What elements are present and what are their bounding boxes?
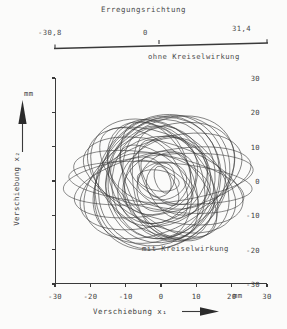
orbit-ellipse xyxy=(86,100,237,262)
plot-frame: -30-20-100102030 -30-20-100102030 xyxy=(55,78,267,284)
orbit-ellipse xyxy=(64,98,254,262)
orbit-ellipse xyxy=(142,159,180,202)
excitation-left-value-text: -30,8 xyxy=(38,28,62,37)
x-tick xyxy=(54,284,55,288)
x-tick-label: 0 xyxy=(159,292,164,301)
y-axis-label: Verschiebung x₂ xyxy=(13,134,20,244)
x-tick-label: -10 xyxy=(119,292,133,301)
annotation-with-gyro: mit Kreiselwirkung xyxy=(142,245,229,252)
orbit-ellipse xyxy=(134,151,186,211)
orbit-ellipse xyxy=(104,110,214,250)
excitation-right-value: 31,4 xyxy=(232,25,251,32)
excitation-left-value: -30,8 xyxy=(38,29,62,36)
excitation-center-value: 0 xyxy=(143,29,148,36)
x-axis-label: Verschiebung x₁ xyxy=(93,308,167,315)
y-axis-unit: mm xyxy=(24,90,33,97)
figure-canvas: Erregungsrichtung -30,8 0 31,4 ohne Krei… xyxy=(0,0,287,329)
x-tick xyxy=(90,284,91,288)
x-tick xyxy=(125,284,126,288)
x-tick-label: -30 xyxy=(48,292,62,301)
x-tick-label: 30 xyxy=(262,292,271,301)
x-tick-label: 10 xyxy=(192,292,201,301)
x-tick-label: -20 xyxy=(83,292,97,301)
x-tick xyxy=(266,284,267,288)
x-tick xyxy=(196,284,197,288)
x-tick xyxy=(231,284,232,288)
x-axis-unit: mm xyxy=(233,292,242,299)
annotation-without-gyro: ohne Kreiselwirkung xyxy=(148,53,240,60)
x-direction-arrow-icon xyxy=(182,307,219,315)
x-tick xyxy=(160,284,161,288)
orbit-ellipse xyxy=(96,125,221,239)
orbit-trajectories xyxy=(55,78,267,284)
